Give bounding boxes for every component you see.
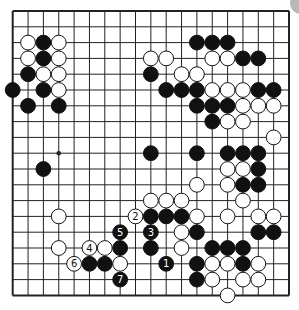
white-stone [205, 256, 220, 271]
white-stone [236, 98, 251, 113]
black-stone [143, 209, 158, 224]
white-stone [51, 51, 66, 66]
white-stone [159, 193, 174, 208]
white-stone [266, 209, 281, 224]
white-stone [205, 83, 220, 98]
move-number-label: 7 [117, 274, 123, 285]
move-number-label: 5 [117, 227, 123, 238]
white-stone [174, 225, 189, 240]
white-stone [97, 241, 112, 256]
black-stone [190, 256, 205, 271]
star-points [56, 151, 61, 156]
white-stone [220, 83, 235, 98]
black-stone [97, 256, 112, 271]
white-stone [190, 177, 205, 192]
black-stone [236, 241, 251, 256]
black-stone [251, 51, 266, 66]
white-stone [220, 51, 235, 66]
black-stone [251, 162, 266, 177]
white-stone [51, 83, 66, 98]
white-stone [143, 193, 158, 208]
white-stone [36, 67, 51, 82]
black-stone [251, 83, 266, 98]
white-stone [266, 130, 281, 145]
white-stone [251, 98, 266, 113]
white-stone [220, 256, 235, 271]
black-stone [220, 35, 235, 50]
black-stone [159, 83, 174, 98]
white-stone [205, 51, 220, 66]
black-stone [220, 241, 235, 256]
black-stone [190, 83, 205, 98]
white-stone [236, 193, 251, 208]
move-number-label: 2 [132, 211, 138, 222]
black-stone [113, 241, 128, 256]
white-stone [251, 256, 266, 271]
white-stone [174, 67, 189, 82]
white-stone [21, 35, 36, 50]
white-stone [51, 67, 66, 82]
black-stone [251, 146, 266, 161]
white-stone [51, 35, 66, 50]
black-stone [190, 35, 205, 50]
black-stone [174, 209, 189, 224]
black-stone [190, 146, 205, 161]
black-stone [190, 225, 205, 240]
white-stone [220, 288, 235, 303]
black-stone [143, 146, 158, 161]
move-number-label: 6 [71, 258, 77, 269]
star-point [56, 151, 61, 156]
white-stone [251, 272, 266, 287]
white-stone [236, 83, 251, 98]
black-stone [36, 162, 51, 177]
black-stone [21, 98, 36, 113]
white-stone [190, 67, 205, 82]
black-stone [51, 98, 66, 113]
black-stone [174, 83, 189, 98]
black-stone [205, 241, 220, 256]
white-stone [190, 209, 205, 224]
black-stone [251, 225, 266, 240]
black-stone [159, 209, 174, 224]
black-stone [36, 51, 51, 66]
black-stone [21, 67, 36, 82]
white-stone [220, 209, 235, 224]
go-board: 1234567 [0, 0, 299, 310]
black-stone [236, 256, 251, 271]
black-stone [5, 83, 20, 98]
white-stone [51, 241, 66, 256]
black-stone [205, 114, 220, 129]
white-stone [266, 98, 281, 113]
black-stone [251, 177, 266, 192]
white-stone [236, 114, 251, 129]
white-stone [113, 256, 128, 271]
black-stone [205, 98, 220, 113]
black-stone [236, 146, 251, 161]
black-stone [143, 67, 158, 82]
white-stone [174, 193, 189, 208]
black-stone [82, 256, 97, 271]
white-stone [220, 114, 235, 129]
black-stone [36, 83, 51, 98]
black-stone [220, 98, 235, 113]
black-stone [266, 83, 281, 98]
move-number-label: 4 [86, 243, 92, 254]
black-stone [36, 35, 51, 50]
white-stone [51, 209, 66, 224]
white-stone [220, 177, 235, 192]
white-stone [159, 51, 174, 66]
black-stone [236, 177, 251, 192]
black-stone [143, 241, 158, 256]
white-stone [236, 162, 251, 177]
white-stone [174, 241, 189, 256]
black-stone [236, 51, 251, 66]
black-stone [205, 35, 220, 50]
move-number-label: 3 [148, 227, 154, 238]
move-number-label: 1 [163, 258, 169, 269]
white-stone [251, 209, 266, 224]
white-stone [21, 51, 36, 66]
black-stone [266, 225, 281, 240]
white-stone [236, 272, 251, 287]
white-stone [220, 162, 235, 177]
white-stone [143, 51, 158, 66]
